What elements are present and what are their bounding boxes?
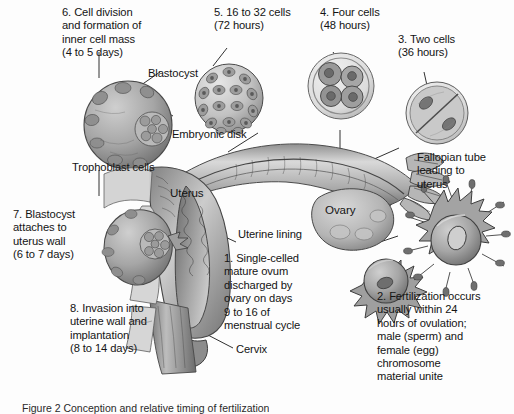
label-blastocyst: Blastocyst [148,67,198,80]
conception-diagram: 6. Cell division and formation of inner … [0,0,514,414]
blastocyst-illustration [84,81,172,169]
label-uterine-lining: Uterine lining [238,228,302,241]
sperm-heads [404,176,511,297]
inner-cell-mass [135,112,169,146]
sperm-cells [404,176,510,296]
label-ovary: Ovary [325,203,355,216]
two-cell-stage-illustration [406,82,468,144]
implanting-inner-cell-mass [140,229,170,259]
label-step-6: 6. Cell division and formation of inner … [62,6,141,60]
label-cervix: Cervix [236,343,267,356]
label-fallopian-tube: Fallopian tube leading to uterus [417,151,486,191]
four-cell-stage-illustration [308,53,374,119]
label-step-1: 1. Single-celled mature ovum discharged … [224,252,300,332]
label-uterus: Uterus [170,186,204,199]
label-step-5: 5. 16 to 32 cells (72 hours) [214,6,291,33]
label-step-7: 7. Blastocyst attaches to uterus wall (6… [13,208,75,262]
ovary-illustration [312,189,394,251]
vagina-body [150,300,196,374]
implanting-blastocyst-illustration [102,210,188,285]
figure-caption: Figure 2 Conception and relative timing … [22,402,269,414]
label-embryonic-disk: Embryonic disk [172,128,246,141]
label-step-4: 4. Four cells (48 hours) [320,6,380,33]
label-step-2: 2. Fertilization occurs usually within 2… [377,290,480,384]
label-step-3: 3. Two cells (36 hours) [398,33,455,60]
label-trophoblast-cells: Trophoblast cells [72,161,154,174]
morula-16-32-cells-illustration [195,64,263,135]
fertilized-ovum-with-sperm-illustration [404,176,511,297]
label-step-8: 8. Invasion into uterine wall and implan… [70,302,147,356]
cervix-body [166,320,208,367]
